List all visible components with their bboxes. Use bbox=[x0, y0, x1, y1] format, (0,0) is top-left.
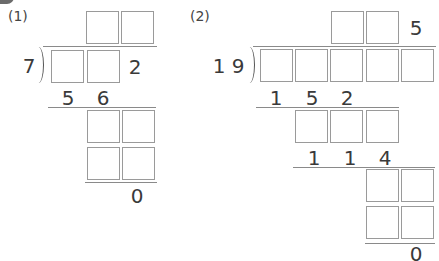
dividend-digit: 2 bbox=[125, 57, 145, 77]
quotient-digit: 5 bbox=[406, 18, 426, 38]
division-bracket bbox=[33, 47, 44, 83]
subtraction-line bbox=[48, 107, 156, 108]
answer-box[interactable] bbox=[366, 206, 399, 239]
remainder: 0 bbox=[127, 186, 147, 206]
answer-box[interactable] bbox=[401, 206, 434, 239]
dividend-box[interactable] bbox=[366, 49, 399, 82]
answer-box[interactable] bbox=[122, 147, 155, 180]
subtraction-line bbox=[293, 167, 435, 168]
dividend-box[interactable] bbox=[51, 50, 84, 83]
answer-box[interactable] bbox=[295, 110, 328, 143]
product-digit: 4 bbox=[375, 148, 395, 168]
quotient-box[interactable] bbox=[366, 11, 399, 44]
product-digit: 5 bbox=[302, 88, 322, 108]
product-digit: 1 bbox=[266, 88, 286, 108]
product-digit: 1 bbox=[304, 148, 324, 168]
quotient-box[interactable] bbox=[331, 11, 364, 44]
dividend-box[interactable] bbox=[295, 49, 328, 82]
product-digit: 6 bbox=[93, 88, 113, 108]
answer-box[interactable] bbox=[366, 169, 399, 202]
division-bar bbox=[43, 46, 157, 47]
subtraction-line bbox=[256, 107, 399, 108]
answer-box[interactable] bbox=[366, 110, 399, 143]
answer-box[interactable] bbox=[87, 147, 120, 180]
quotient-box[interactable] bbox=[86, 11, 119, 44]
product-digit: 2 bbox=[337, 88, 357, 108]
divisor-digit: 1 bbox=[209, 56, 229, 76]
division-bar bbox=[253, 46, 436, 47]
answer-box[interactable] bbox=[87, 110, 120, 143]
section-badge bbox=[0, 0, 14, 4]
dividend-box[interactable] bbox=[260, 49, 293, 82]
problem-2-label: (2) bbox=[190, 8, 210, 24]
dividend-box[interactable] bbox=[87, 50, 120, 83]
answer-box[interactable] bbox=[401, 169, 434, 202]
dividend-box[interactable] bbox=[401, 49, 434, 82]
product-digit: 5 bbox=[58, 88, 78, 108]
answer-box[interactable] bbox=[122, 110, 155, 143]
remainder: 0 bbox=[406, 244, 426, 261]
dividend-box[interactable] bbox=[330, 49, 363, 82]
subtraction-line bbox=[85, 182, 157, 183]
quotient-box[interactable] bbox=[121, 11, 154, 44]
division-bracket bbox=[244, 47, 255, 83]
problem-1-label: (1) bbox=[8, 8, 28, 24]
product-digit: 1 bbox=[340, 148, 360, 168]
answer-box[interactable] bbox=[330, 110, 363, 143]
